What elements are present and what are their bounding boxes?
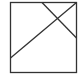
square-diagram xyxy=(0,0,78,76)
corner-line xyxy=(42,3,77,39)
diagonal-line xyxy=(11,3,77,59)
square-frame xyxy=(11,3,77,73)
